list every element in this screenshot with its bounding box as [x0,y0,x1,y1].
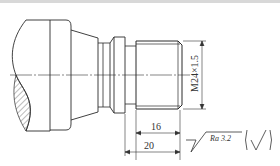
thread-label: M24×1.5 [189,55,200,92]
dim-16: 16 [151,121,161,132]
section-hatch [14,75,30,131]
roughness-label: Ra 3.2 [209,134,231,143]
check-symbol [246,130,272,150]
dim-20: 20 [144,140,154,151]
thread-length-dimension [136,110,180,160]
technical-drawing: M24×1.5 16 20 Ra 3.2 [0,0,280,166]
